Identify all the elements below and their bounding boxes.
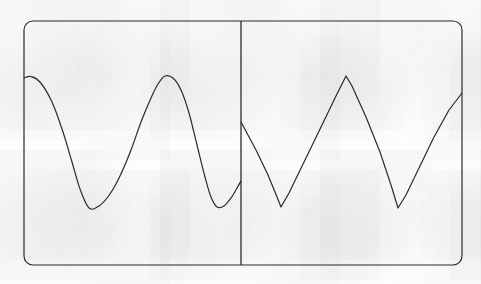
figure-canvas	[0, 0, 481, 284]
waveform-figure	[0, 0, 481, 284]
sharp-triangle-wave-path	[241, 76, 462, 208]
smooth-sine-wave-path	[24, 76, 241, 210]
rounded-rectangle-frame	[24, 21, 462, 265]
